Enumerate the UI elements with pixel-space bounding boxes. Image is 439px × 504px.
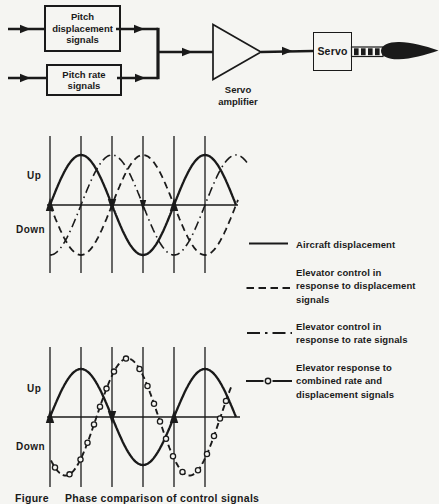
- legend-label-displacement-response: Elevator control in response to displace…: [296, 266, 416, 306]
- upper-waveform-plot: [46, 136, 247, 273]
- servo-box: Servo: [313, 32, 352, 71]
- lower-plot-down-label: Down: [16, 441, 45, 452]
- legend-line-samples: [246, 244, 292, 384]
- legend-label-combined-response: Elevator response to combined rate and d…: [296, 361, 394, 401]
- pitch-displacement-signals-label: Pitch displacement signals: [52, 11, 113, 46]
- pitch-rate-signals-label: Pitch rate signals: [62, 69, 105, 92]
- servo-amplifier-label: Servo amplifier: [206, 84, 270, 107]
- legend-label-rate-response: Elevator control in response to rate sig…: [296, 320, 408, 347]
- upper-plot-down-label: Down: [16, 224, 45, 235]
- figure-caption: Figure Phase comparison of control signa…: [15, 492, 259, 504]
- upper-plot-up-label: Up: [27, 170, 41, 181]
- lower-plot-up-label: Up: [27, 383, 41, 394]
- pitch-rate-signals-box: Pitch rate signals: [46, 64, 122, 96]
- lower-waveform-plot: [46, 347, 240, 487]
- legend-label-aircraft-displacement: Aircraft displacement: [296, 238, 395, 251]
- pitch-displacement-signals-box: Pitch displacement signals: [44, 5, 121, 52]
- servo-box-label: Servo: [317, 46, 347, 58]
